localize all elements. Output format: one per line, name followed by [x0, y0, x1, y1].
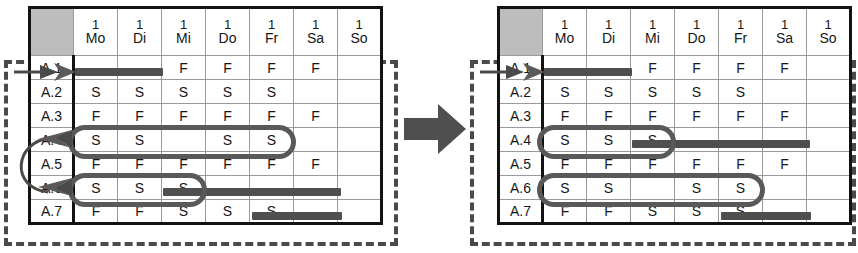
table-row[interactable]: A.4SSS — [499, 128, 851, 152]
schedule-cell[interactable]: F — [250, 56, 294, 80]
schedule-cell[interactable]: F — [587, 152, 631, 176]
table-row[interactable]: A.2SSSSS — [499, 80, 851, 104]
schedule-cell[interactable]: F — [206, 104, 250, 128]
row-label-cell[interactable]: A.6 — [499, 176, 543, 200]
schedule-cell[interactable]: F — [74, 104, 118, 128]
table-row[interactable]: A.4SSSS — [30, 128, 382, 152]
row-label-cell[interactable]: A.6 — [30, 176, 74, 200]
row-label-cell[interactable]: A.7 — [30, 200, 74, 224]
schedule-cell[interactable] — [763, 176, 807, 200]
schedule-cell[interactable]: S — [631, 128, 675, 152]
schedule-cell[interactable]: F — [294, 56, 338, 80]
schedule-cell[interactable]: F — [675, 152, 719, 176]
row-label-cell[interactable]: A.1 — [499, 56, 543, 80]
schedule-cell[interactable] — [543, 56, 587, 80]
schedule-cell[interactable]: F — [543, 200, 587, 224]
schedule-cell[interactable]: S — [206, 80, 250, 104]
schedule-cell[interactable]: S — [206, 200, 250, 224]
row-label-cell[interactable]: A.1 — [30, 56, 74, 80]
schedule-cell[interactable] — [763, 128, 807, 152]
schedule-cell[interactable] — [118, 56, 162, 80]
schedule-cell[interactable] — [587, 56, 631, 80]
schedule-cell[interactable]: S — [675, 176, 719, 200]
schedule-cell[interactable]: S — [587, 80, 631, 104]
schedule-cell[interactable] — [763, 80, 807, 104]
schedule-cell[interactable]: S — [162, 80, 206, 104]
schedule-cell[interactable] — [763, 200, 807, 224]
schedule-cell[interactable]: F — [763, 56, 807, 80]
schedule-cell[interactable]: F — [631, 56, 675, 80]
table-row[interactable]: A.7FFSSS — [30, 200, 382, 224]
schedule-cell[interactable] — [338, 176, 382, 200]
schedule-cell[interactable]: F — [206, 152, 250, 176]
schedule-cell[interactable]: F — [719, 152, 763, 176]
schedule-cell[interactable] — [807, 104, 851, 128]
table-row[interactable]: A.2SSSSS — [30, 80, 382, 104]
row-label-cell[interactable]: A.7 — [499, 200, 543, 224]
schedule-cell[interactable]: F — [719, 56, 763, 80]
schedule-cell[interactable]: S — [74, 80, 118, 104]
schedule-cell[interactable]: F — [162, 104, 206, 128]
schedule-cell[interactable] — [338, 104, 382, 128]
schedule-cell[interactable]: S — [250, 80, 294, 104]
schedule-cell[interactable] — [675, 128, 719, 152]
schedule-cell[interactable]: F — [118, 104, 162, 128]
schedule-cell[interactable] — [162, 128, 206, 152]
row-label-cell[interactable]: A.3 — [30, 104, 74, 128]
schedule-cell[interactable]: S — [675, 80, 719, 104]
row-label-cell[interactable]: A.4 — [30, 128, 74, 152]
table-row[interactable]: A.3FFFFFF — [499, 104, 851, 128]
schedule-cell[interactable] — [807, 128, 851, 152]
schedule-cell[interactable]: S — [74, 176, 118, 200]
schedule-cell[interactable]: S — [118, 128, 162, 152]
schedule-cell[interactable]: F — [675, 56, 719, 80]
schedule-cell[interactable]: S — [162, 176, 206, 200]
schedule-cell[interactable]: F — [294, 152, 338, 176]
schedule-cell[interactable] — [719, 128, 763, 152]
schedule-cell[interactable]: F — [763, 104, 807, 128]
schedule-cell[interactable]: S — [118, 80, 162, 104]
schedule-cell[interactable] — [807, 176, 851, 200]
schedule-cell[interactable]: F — [631, 104, 675, 128]
schedule-cell[interactable]: S — [631, 200, 675, 224]
schedule-cell[interactable]: S — [206, 128, 250, 152]
table-row[interactable]: A.6SSSS — [499, 176, 851, 200]
schedule-cell[interactable] — [807, 56, 851, 80]
schedule-cell[interactable] — [338, 56, 382, 80]
schedule-cell[interactable]: F — [294, 104, 338, 128]
row-label-cell[interactable]: A.3 — [499, 104, 543, 128]
schedule-cell[interactable] — [250, 176, 294, 200]
schedule-cell[interactable]: F — [118, 152, 162, 176]
schedule-cell[interactable] — [338, 152, 382, 176]
schedule-cell[interactable]: F — [206, 56, 250, 80]
schedule-cell[interactable] — [807, 152, 851, 176]
table-row[interactable]: A.3FFFFFF — [30, 104, 382, 128]
schedule-cell[interactable]: S — [74, 128, 118, 152]
row-label-cell[interactable]: A.2 — [30, 80, 74, 104]
row-label-cell[interactable]: A.4 — [499, 128, 543, 152]
schedule-cell[interactable] — [807, 200, 851, 224]
row-label-cell[interactable]: A.2 — [499, 80, 543, 104]
schedule-cell[interactable]: S — [587, 176, 631, 200]
schedule-cell[interactable] — [294, 200, 338, 224]
schedule-cell[interactable]: F — [118, 200, 162, 224]
schedule-cell[interactable] — [294, 128, 338, 152]
schedule-cell[interactable]: S — [118, 176, 162, 200]
table-row[interactable]: A.1FFFF — [499, 56, 851, 80]
schedule-cell[interactable] — [631, 176, 675, 200]
schedule-cell[interactable]: S — [719, 200, 763, 224]
schedule-cell[interactable]: F — [543, 152, 587, 176]
schedule-cell[interactable]: F — [162, 56, 206, 80]
table-row[interactable]: A.1FFFF — [30, 56, 382, 80]
schedule-cell[interactable] — [74, 56, 118, 80]
schedule-cell[interactable]: S — [631, 80, 675, 104]
schedule-cell[interactable]: F — [719, 104, 763, 128]
schedule-cell[interactable]: F — [74, 152, 118, 176]
schedule-cell[interactable] — [294, 176, 338, 200]
schedule-cell[interactable]: S — [543, 128, 587, 152]
schedule-cell[interactable]: S — [675, 200, 719, 224]
schedule-cell[interactable]: S — [719, 176, 763, 200]
schedule-cell[interactable]: F — [763, 152, 807, 176]
schedule-cell[interactable]: S — [543, 80, 587, 104]
schedule-cell[interactable]: S — [543, 176, 587, 200]
